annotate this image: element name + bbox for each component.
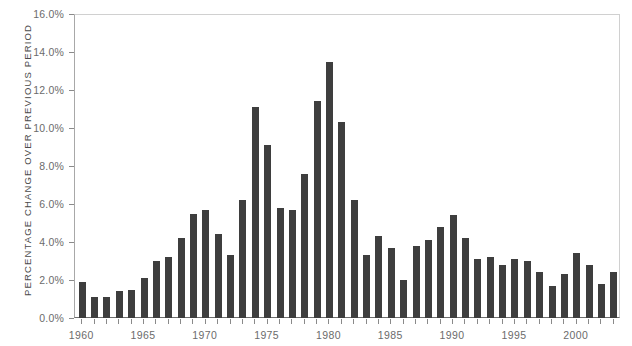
x-axis-tick-mark [168, 319, 169, 324]
x-axis-tick-mark [526, 319, 527, 324]
y-axis-tick-label: 8.0% [8, 160, 64, 172]
bar [202, 210, 209, 318]
bar [326, 62, 333, 319]
bar [413, 246, 420, 318]
x-axis-tick-mark [217, 319, 218, 324]
x-axis-tick-label: 1980 [316, 329, 341, 341]
x-axis-tick-mark [180, 319, 181, 324]
bar [314, 101, 321, 318]
x-axis-tick-mark [205, 319, 206, 324]
x-axis-tick-label: 2000 [563, 329, 588, 341]
x-axis-tick-label: 1995 [501, 329, 526, 341]
x-axis-tick-mark [563, 319, 564, 324]
bar-series [75, 14, 620, 318]
x-axis-tick-mark [576, 319, 577, 324]
bar [437, 227, 444, 318]
x-axis-tick-mark [477, 319, 478, 324]
y-axis-tick-label: 14.0% [8, 46, 64, 58]
x-axis-tick-mark [254, 319, 255, 324]
x-axis-tick-mark [341, 319, 342, 324]
x-axis-tick-mark [366, 319, 367, 324]
bar [103, 297, 110, 318]
bar [474, 259, 481, 318]
bar [252, 107, 259, 318]
x-axis-tick-mark [304, 319, 305, 324]
bar [79, 282, 86, 318]
chart-figure: PERCENTAGE CHANGE OVER PREVIOUS PERIOD 0… [0, 0, 632, 346]
bar [227, 255, 234, 318]
x-axis-tick-mark [267, 319, 268, 324]
y-axis-tick-label: 2.0% [8, 274, 64, 286]
x-axis-tick-mark [489, 319, 490, 324]
y-axis-tick-label: 12.0% [8, 84, 64, 96]
x-axis-tick-mark [131, 319, 132, 324]
bar [91, 297, 98, 318]
x-axis-tick-mark [539, 319, 540, 324]
x-axis-tick-mark [242, 319, 243, 324]
x-axis-tick-mark [106, 319, 107, 324]
x-axis-tick-mark [155, 319, 156, 324]
bar [363, 255, 370, 318]
x-axis-tick-label: 1975 [254, 329, 279, 341]
x-axis-tick-mark [514, 319, 515, 324]
bar [153, 261, 160, 318]
y-axis-tick-mark [69, 318, 74, 319]
bar [264, 145, 271, 318]
bar [487, 257, 494, 318]
bar [239, 200, 246, 318]
x-axis-tick-mark [600, 319, 601, 324]
y-axis-tick-label: 6.0% [8, 198, 64, 210]
x-axis-tick-mark [378, 319, 379, 324]
bar [165, 257, 172, 318]
bar [549, 286, 556, 318]
bar [215, 234, 222, 318]
bar [425, 240, 432, 318]
bar [499, 265, 506, 318]
bar [388, 248, 395, 318]
x-axis-tick-mark [291, 319, 292, 324]
x-axis-tick-mark [143, 319, 144, 324]
bar [462, 238, 469, 318]
bar [178, 238, 185, 318]
y-axis-tick-label: 10.0% [8, 122, 64, 134]
y-axis-tick-label: 16.0% [8, 8, 64, 20]
x-axis-tick-mark [427, 319, 428, 324]
x-axis-tick-mark [390, 319, 391, 324]
x-axis-tick-mark [440, 319, 441, 324]
bar [400, 280, 407, 318]
x-axis-tick-mark [328, 319, 329, 324]
x-axis-tick-mark [415, 319, 416, 324]
bar [128, 290, 135, 319]
bar [586, 265, 593, 318]
x-axis-tick-mark [403, 319, 404, 324]
bar [351, 200, 358, 318]
bar [610, 272, 617, 318]
x-axis-tick-mark [81, 319, 82, 324]
bar [573, 253, 580, 318]
bar [338, 122, 345, 318]
x-axis-tick-mark [613, 319, 614, 324]
x-axis-tick-mark [316, 319, 317, 324]
bar [190, 214, 197, 319]
x-axis-tick-mark [464, 319, 465, 324]
x-axis-tick-mark [230, 319, 231, 324]
bar [598, 284, 605, 318]
y-axis-tick-label: 0.0% [8, 312, 64, 324]
bar [301, 174, 308, 318]
bar [536, 272, 543, 318]
x-axis-tick-label: 1960 [69, 329, 94, 341]
bar [450, 215, 457, 318]
x-axis-tick-mark [118, 319, 119, 324]
bar [524, 261, 531, 318]
x-axis-tick-label: 1985 [378, 329, 403, 341]
bar [116, 291, 123, 318]
x-axis-tick-mark [502, 319, 503, 324]
x-axis-tick-mark [279, 319, 280, 324]
bar [277, 208, 284, 318]
bar [141, 278, 148, 318]
x-axis-tick-label: 1965 [131, 329, 156, 341]
x-axis-tick-mark [551, 319, 552, 324]
x-axis-tick-label: 1970 [192, 329, 217, 341]
x-axis-tick-label: 1990 [440, 329, 465, 341]
bar [511, 259, 518, 318]
